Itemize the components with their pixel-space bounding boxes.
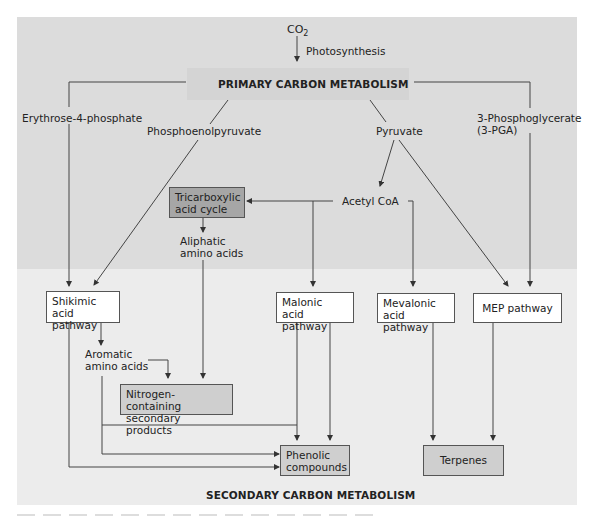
- aliphatic-line2: amino acids: [180, 247, 243, 259]
- malonic-line1: Malonic: [282, 296, 348, 308]
- caption-line: [17, 514, 377, 516]
- acetyl-coa-label: Acetyl CoA: [342, 195, 399, 207]
- primary-metabolism-title: PRIMARY CARBON METABOLISM: [218, 78, 408, 90]
- malonic-acid-pathway-box: Malonic acid pathway: [276, 292, 354, 323]
- phenolic-line1: Phenolic: [286, 449, 344, 461]
- aliphatic-line1: Aliphatic: [180, 235, 243, 247]
- phosphoenolpyruvate-label: Phosphoenolpyruvate: [147, 125, 261, 137]
- photosynthesis-label: Photosynthesis: [306, 45, 385, 57]
- tca-line1: Tricarboxylic: [175, 191, 239, 203]
- pyruvate-label: Pyruvate: [376, 125, 423, 137]
- phenolic-line2: compounds: [286, 461, 344, 473]
- nitrogen-line2: secondary products: [126, 412, 227, 436]
- tca-line2: acid cycle: [175, 203, 239, 215]
- tca-cycle-box: Tricarboxylic acid cycle: [169, 187, 245, 218]
- terpenes-box: Terpenes: [423, 445, 504, 476]
- 3-pga-label: 3-Phosphoglycerate (3-PGA): [477, 112, 581, 136]
- phenolic-compounds-box: Phenolic compounds: [280, 445, 350, 476]
- aliphatic-amino-acids-label: Aliphatic amino acids: [180, 235, 243, 259]
- mevalonic-line1: Mevalonic: [383, 297, 449, 309]
- mep-pathway-box: MEP pathway: [473, 293, 562, 323]
- mevalonic-acid-pathway-box: Mevalonic acid pathway: [377, 293, 455, 323]
- shikimic-line1: Shikimic acid: [52, 295, 114, 319]
- mevalonic-line2: acid pathway: [383, 309, 449, 333]
- co2-text: CO: [287, 23, 303, 36]
- 3-pga-label-line2: (3-PGA): [477, 124, 581, 136]
- aromatic-line2: amino acids: [85, 360, 148, 372]
- nitrogen-line1: Nitrogen-containing: [126, 388, 227, 412]
- aromatic-line1: Aromatic: [85, 348, 148, 360]
- erythrose-4-phosphate-label: Erythrose-4-phosphate: [22, 112, 142, 124]
- malonic-line2: acid pathway: [282, 308, 348, 332]
- secondary-metabolism-title: SECONDARY CARBON METABOLISM: [206, 489, 415, 501]
- nitrogen-containing-products-box: Nitrogen-containing secondary products: [120, 384, 233, 415]
- co2-label: CO2: [287, 24, 308, 40]
- co2-subscript: 2: [303, 29, 308, 38]
- aromatic-amino-acids-label: Aromatic amino acids: [85, 348, 148, 372]
- shikimic-acid-pathway-box: Shikimic acid pathway: [46, 291, 120, 323]
- shikimic-line2: pathway: [52, 319, 114, 331]
- 3-pga-label-line1: 3-Phosphoglycerate: [477, 112, 581, 124]
